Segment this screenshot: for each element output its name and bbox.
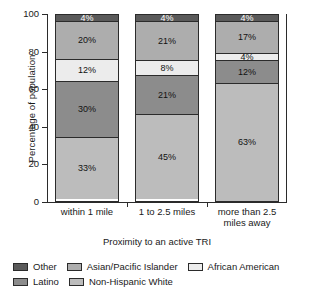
legend-item[interactable]: Latino xyxy=(13,276,59,287)
y-tick-label-0: 0 xyxy=(34,196,39,207)
bar-segment-label: 12% xyxy=(78,66,96,75)
y-tick-0: 0 xyxy=(42,202,47,203)
x-tick-label-2: more than 2.5 miles away xyxy=(203,206,291,228)
bar-segment-label: 4% xyxy=(160,15,173,22)
legend: OtherAsian/Pacific IslanderAfrican Ameri… xyxy=(13,259,305,289)
y-tick-label-60: 60 xyxy=(28,83,39,94)
x-axis-title: Proximity to an active TRI xyxy=(0,236,314,247)
bar-segment[interactable]: 4% xyxy=(216,15,278,22)
bar-segment-label: 21% xyxy=(158,37,176,46)
bar-segment[interactable]: 21% xyxy=(136,22,198,61)
bar-segment[interactable]: 20% xyxy=(56,22,118,59)
bar-segment[interactable]: 63% xyxy=(216,84,278,201)
x-tick-labels: within 1 mile 1 to 2.5 miles more than 2… xyxy=(47,206,287,232)
legend-item[interactable]: Asian/Pacific Islander xyxy=(67,261,178,272)
x-tick-label-2-line2: miles away xyxy=(203,217,291,228)
x-tick-label-1: 1 to 2.5 miles xyxy=(123,206,211,217)
bar-segment[interactable]: 33% xyxy=(56,138,118,199)
table-row[interactable]: 4%17%4%12%63% xyxy=(215,14,279,202)
bar-segment[interactable]: 4% xyxy=(136,15,198,22)
legend-label: African American xyxy=(208,261,280,272)
y-axis-line xyxy=(47,14,48,202)
bar-segment[interactable]: 30% xyxy=(56,82,118,138)
y-tick-60: 60 xyxy=(42,89,47,90)
y-tick-label-100: 100 xyxy=(23,8,39,19)
bar-segment-label: 63% xyxy=(238,138,256,147)
bar-segment-label: 45% xyxy=(158,153,176,162)
bar-segment[interactable]: 4% xyxy=(216,54,278,61)
legend-swatch-icon xyxy=(13,263,28,271)
y-tick-label-20: 20 xyxy=(28,158,39,169)
bar-segment-label: 4% xyxy=(240,15,253,22)
bar-segment[interactable]: 12% xyxy=(216,61,278,83)
legend-item[interactable]: Non-Hispanic White xyxy=(69,276,173,287)
bar-segment-label: 20% xyxy=(78,36,96,45)
bar-segment[interactable]: 45% xyxy=(136,115,198,199)
legend-swatch-icon xyxy=(188,263,203,271)
bar-segment-label: 12% xyxy=(238,68,256,77)
y-tick-100: 100 xyxy=(42,14,47,15)
table-row[interactable]: 4%20%12%30%33% xyxy=(55,14,119,202)
stacked-bar-chart: Percentage of population 100 80 60 40 20… xyxy=(0,0,314,295)
bar-segment-label: 21% xyxy=(158,91,176,100)
plot-area: 100 80 60 40 20 0 4%20%12%30%33% 4%21%8%… xyxy=(47,14,287,202)
bar-segment[interactable]: 17% xyxy=(216,22,278,54)
legend-swatch-icon xyxy=(69,278,84,286)
bar-segment-label: 33% xyxy=(78,164,96,173)
x-tick-label-0-line1: within 1 mile xyxy=(43,206,131,217)
legend-label: Asian/Pacific Islander xyxy=(87,261,178,272)
y-tick-label-80: 80 xyxy=(28,46,39,57)
y-tick-label-40: 40 xyxy=(28,121,39,132)
bar-segment[interactable]: 21% xyxy=(136,76,198,115)
legend-row-1: OtherAsian/Pacific IslanderAfrican Ameri… xyxy=(13,259,305,274)
legend-swatch-icon xyxy=(13,278,28,286)
legend-row-2: LatinoNon-Hispanic White xyxy=(13,274,305,289)
legend-label: Latino xyxy=(33,276,59,287)
legend-label: Non-Hispanic White xyxy=(89,276,173,287)
bar-segment-label: 17% xyxy=(238,33,256,42)
x-axis-line xyxy=(47,202,287,203)
legend-item[interactable]: African American xyxy=(188,261,280,272)
bar-segment-label: 8% xyxy=(160,64,173,73)
bar-segment-label: 4% xyxy=(240,54,253,61)
x-tick-label-2-line1: more than 2.5 xyxy=(203,206,291,217)
y-tick-20: 20 xyxy=(42,164,47,165)
legend-swatch-icon xyxy=(67,263,82,271)
bar-segment[interactable]: 8% xyxy=(136,61,198,76)
legend-item[interactable]: Other xyxy=(13,261,57,272)
y-tick-40: 40 xyxy=(42,127,47,128)
x-tick-label-1-line1: 1 to 2.5 miles xyxy=(123,206,211,217)
legend-label: Other xyxy=(33,261,57,272)
bar-segment-label: 30% xyxy=(78,105,96,114)
y-axis-title: Percentage of population xyxy=(26,14,37,204)
table-row[interactable]: 4%21%8%21%45% xyxy=(135,14,199,202)
bar-segment[interactable]: 12% xyxy=(56,60,118,82)
bar-segment-label: 4% xyxy=(80,15,93,22)
x-tick-label-0: within 1 mile xyxy=(43,206,131,217)
plot-right-border xyxy=(286,14,287,202)
y-tick-80: 80 xyxy=(42,52,47,53)
bar-segment[interactable]: 4% xyxy=(56,15,118,22)
